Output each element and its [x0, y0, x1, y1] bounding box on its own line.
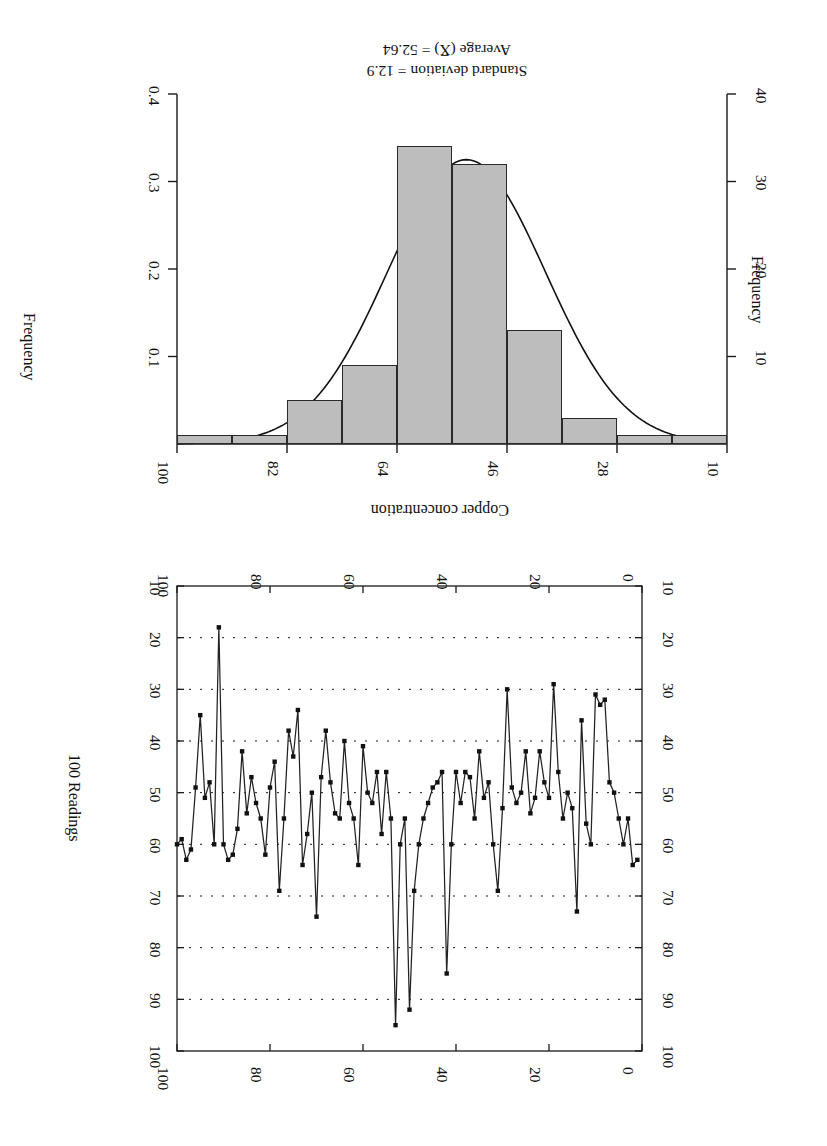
- histogram-left-tick: 30: [754, 176, 770, 192]
- histogram-bar: [287, 400, 342, 444]
- histogram-bar: [617, 435, 672, 444]
- run-chart-x-axis-title: 100 Readings: [66, 754, 82, 842]
- histogram-bar: [507, 330, 562, 444]
- run-chart-y-tick-right: 20: [148, 632, 164, 648]
- histogram-right-axis-title: Frequency: [21, 313, 37, 381]
- run-chart-y-tick-left: 30: [661, 683, 677, 699]
- histogram-bar: [397, 147, 452, 445]
- run-chart-y-tick-right: 30: [148, 683, 164, 699]
- histogram-panel: 1028466482100 10203040 0.10.20.30.4 Freq…: [0, 0, 827, 506]
- run-chart-x-tick: 40: [435, 574, 451, 590]
- histogram-left-tick: 40: [754, 88, 770, 104]
- run-chart-x-tick: 60: [342, 574, 358, 590]
- run-chart-x-tick-top: 0: [621, 1067, 637, 1075]
- run-chart-y-tick-left: 50: [661, 787, 677, 803]
- run-chart-x-tick-top: 80: [249, 1067, 265, 1083]
- histogram-x-tick: 28: [596, 461, 612, 477]
- run-chart-y-tick-left: 60: [661, 838, 677, 854]
- histogram-stdev-annotation: Standard deviation = 12.9: [67, 62, 827, 80]
- run-chart-y-tick-left: 20: [661, 632, 677, 648]
- run-chart-y-tick-left: 40: [661, 735, 677, 751]
- run-chart-y-tick-right: 100: [148, 1045, 164, 1068]
- histogram-bar: [562, 418, 617, 444]
- histogram-bar: [672, 435, 727, 444]
- histogram-bar: [232, 435, 287, 444]
- run-chart-panel: 002020404060608080100100 101020203030404…: [0, 546, 827, 1146]
- run-chart-y-tick-left: 10: [661, 580, 677, 596]
- histogram-average-annotation: Average (X̅) = 52.64: [67, 41, 827, 59]
- histogram-x-tick: 10: [706, 461, 722, 477]
- histogram-right-tick: 0.4: [147, 86, 163, 105]
- figure-page: 002020404060608080100100 101020203030404…: [0, 0, 827, 1146]
- run-chart-y-tick-right: 10: [148, 580, 164, 596]
- run-chart-y-tick-left: 90: [661, 993, 677, 1009]
- histogram-right-tick: 0.1: [147, 349, 163, 368]
- histogram-x-tick: 64: [376, 461, 392, 477]
- histogram-x-tick: 46: [486, 461, 502, 477]
- histogram-x-tick: 100: [156, 461, 172, 484]
- run-chart-y-tick-right: 40: [148, 735, 164, 751]
- histogram-left-tick: 10: [754, 351, 770, 367]
- run-chart-y-tick-right: 60: [148, 838, 164, 854]
- run-chart-y-tick-left: 70: [661, 890, 677, 906]
- run-chart-y-tick-right: 50: [148, 787, 164, 803]
- histogram-bar: [342, 365, 397, 444]
- run-chart-y-tick-right: 80: [148, 942, 164, 958]
- run-chart-y-tick-right: 90: [148, 993, 164, 1009]
- run-chart-y-tick-right: 70: [148, 890, 164, 906]
- histogram-bar: [177, 435, 232, 444]
- run-chart-x-tick: 0: [621, 574, 637, 582]
- run-chart-y-tick-left: 80: [661, 942, 677, 958]
- run-chart-x-tick: 20: [528, 574, 544, 590]
- run-chart-x-tick-top: 40: [435, 1067, 451, 1083]
- histogram-right-tick: 0.3: [147, 174, 163, 193]
- run-chart-x-tick-top: 100: [156, 1067, 172, 1090]
- run-chart-x-tick-top: 60: [342, 1067, 358, 1083]
- histogram-left-axis-title: Frequency: [749, 256, 765, 324]
- histogram-bar: [452, 164, 507, 444]
- run-chart-x-tick: 80: [249, 574, 265, 590]
- histogram-x-tick: 82: [266, 461, 282, 477]
- histogram-right-tick: 0.2: [147, 261, 163, 280]
- run-chart-y-tick-left: 100: [661, 1045, 677, 1068]
- run-chart-x-tick-top: 20: [528, 1067, 544, 1083]
- run-chart-canvas: [0, 546, 827, 1146]
